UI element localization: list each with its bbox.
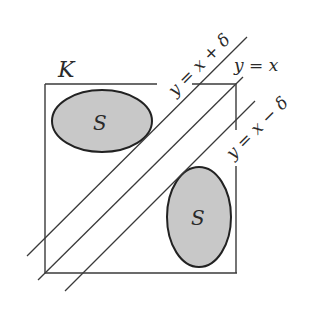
diagram-canvas: K S S y = x y = x + δ y = x − δ — [0, 0, 317, 314]
line-label-y-equals-x-minus-delta: y = x − δ — [221, 92, 292, 163]
line-label-y-equals-x: y = x — [233, 55, 279, 75]
region-label-s-top: S — [93, 111, 107, 135]
line-label-y-equals-x-plus-delta: y = x + δ — [163, 29, 234, 100]
set-label-k: K — [57, 57, 76, 82]
region-label-s-bottom: S — [191, 206, 205, 230]
